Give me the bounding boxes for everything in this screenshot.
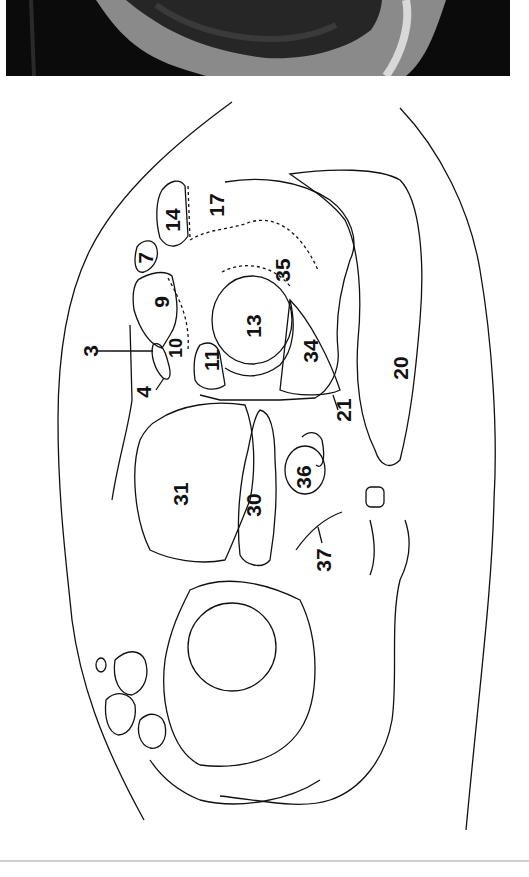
label-36: 36 (292, 465, 315, 488)
label-21: 21 (332, 398, 355, 422)
anatomy-line-drawing: 3 4 7 9 10 11 13 14 17 20 21 30 31 34 35… (0, 76, 529, 856)
label-14: 14 (161, 208, 184, 232)
label-17: 17 (205, 193, 228, 216)
bottom-divider (0, 860, 529, 862)
label-10: 10 (166, 338, 186, 358)
mri-slice-image (6, 0, 510, 76)
mri-image-panel (6, 0, 510, 76)
label-37: 37 (312, 548, 335, 571)
label-3: 3 (79, 345, 102, 357)
label-11: 11 (200, 349, 223, 372)
label-35: 35 (271, 258, 294, 282)
label-30: 30 (242, 493, 265, 516)
label-31: 31 (169, 482, 192, 506)
label-34: 34 (299, 339, 322, 363)
label-4: 4 (132, 386, 155, 398)
label-13: 13 (242, 314, 265, 337)
label-7: 7 (134, 252, 157, 264)
label-20: 20 (389, 356, 412, 379)
label-9: 9 (150, 296, 173, 308)
